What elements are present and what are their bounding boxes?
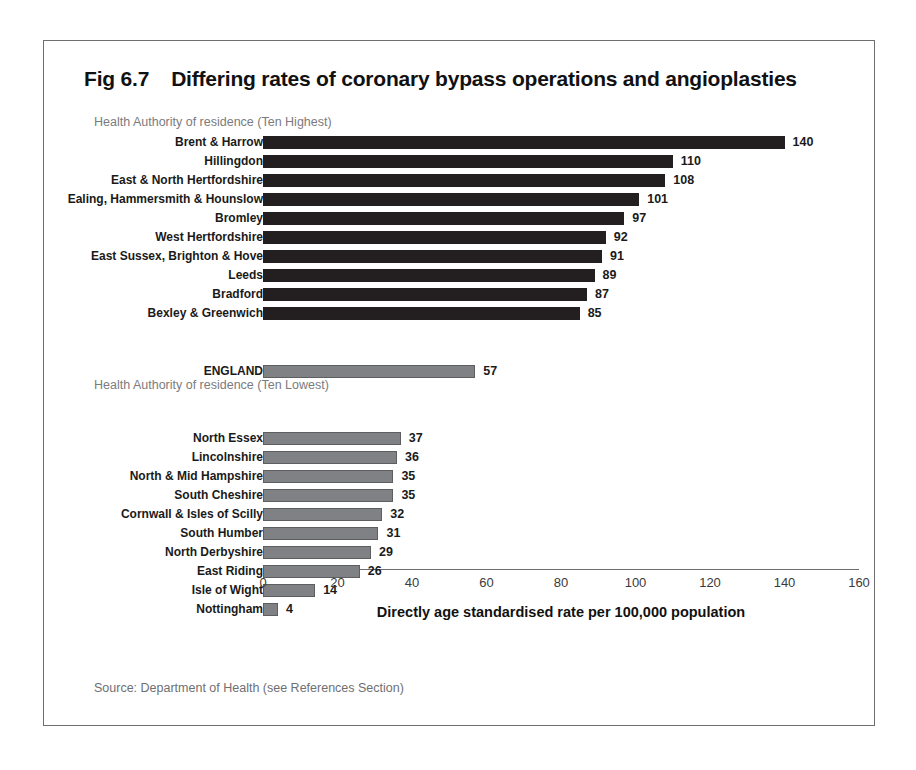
bar-value-label: 97: [632, 211, 646, 226]
bar: [263, 212, 624, 225]
bar-row: Leeds89: [44, 267, 876, 286]
bar: [263, 307, 580, 320]
bar-category-label: Brent & Harrow: [175, 135, 263, 150]
x-axis-tick-label: 60: [479, 575, 493, 590]
bar-row: Bradford87: [44, 286, 876, 305]
bar-track: [263, 136, 785, 149]
bar-row: North Derbyshire29: [44, 544, 876, 563]
bar-row: East & North Hertfordshire108: [44, 172, 876, 191]
bar: [263, 231, 606, 244]
bar-row: Hillingdon110: [44, 153, 876, 172]
bar-row: South Cheshire35: [44, 487, 876, 506]
bar: [263, 508, 382, 521]
x-axis-tick-label: 100: [625, 575, 647, 590]
bar-track: [263, 584, 315, 597]
bar: [263, 155, 673, 168]
bar: [263, 603, 278, 616]
bar: [263, 546, 371, 559]
bar: [263, 489, 393, 502]
bar-row: North Essex37: [44, 430, 876, 449]
bar-row: Brent & Harrow140: [44, 134, 876, 153]
bar-value-label: 57: [483, 364, 497, 379]
x-axis-tick-label: 80: [554, 575, 568, 590]
bar: [263, 193, 639, 206]
bar-category-label: North Derbyshire: [165, 545, 263, 560]
bar-value-label: 26: [368, 564, 382, 579]
bar-track: [263, 451, 397, 464]
bar: [263, 365, 475, 378]
bar-row: Bexley & Greenwich85: [44, 305, 876, 324]
x-axis-tick-label: 160: [848, 575, 870, 590]
bar: [263, 432, 401, 445]
bar: [263, 451, 397, 464]
bar-track: [263, 307, 580, 320]
bar: [263, 527, 378, 540]
bar-category-label: East Riding: [197, 564, 263, 579]
bar-track: [263, 231, 606, 244]
bar-track: [263, 508, 382, 521]
bar-row: Isle of Wight14: [44, 582, 876, 601]
bar-category-label: Ealing, Hammersmith & Hounslow: [68, 192, 263, 207]
bar-row: East Sussex, Brighton & Hove91: [44, 248, 876, 267]
bar-row: South Humber31: [44, 525, 876, 544]
bar: [263, 250, 602, 263]
bar-category-label: East & North Hertfordshire: [111, 173, 263, 188]
bar-row: ENGLAND57: [44, 363, 876, 382]
bar-track: [263, 288, 587, 301]
bar: [263, 269, 595, 282]
x-axis-tick-label: 120: [699, 575, 721, 590]
bar-value-label: 92: [614, 230, 628, 245]
bar-value-label: 29: [379, 545, 393, 560]
bar-category-label: North Essex: [193, 431, 263, 446]
bar-value-label: 140: [793, 135, 814, 150]
bar-value-label: 37: [409, 431, 423, 446]
bar-track: [263, 470, 393, 483]
bar-category-label: Bradford: [212, 287, 263, 302]
bar-track: [263, 365, 475, 378]
x-axis-tick-label: 20: [330, 575, 344, 590]
bar-track: [263, 193, 639, 206]
bar-track: [263, 250, 602, 263]
bar-category-label: South Cheshire: [174, 488, 263, 503]
bar-category-label: Bexley & Greenwich: [148, 306, 263, 321]
bar-value-label: 35: [401, 469, 415, 484]
bar: [263, 174, 665, 187]
bar-category-label: ENGLAND: [204, 364, 263, 379]
bar: [263, 470, 393, 483]
bar-category-label: Lincolnshire: [192, 450, 263, 465]
bar-row: Ealing, Hammersmith & Hounslow101: [44, 191, 876, 210]
bar-value-label: 89: [603, 268, 617, 283]
bar-category-label: West Hertfordshire: [155, 230, 263, 245]
bar-track: [263, 155, 673, 168]
bar-category-label: Cornwall & Isles of Scilly: [121, 507, 263, 522]
bar-category-label: East Sussex, Brighton & Hove: [91, 249, 263, 264]
bar-value-label: 4: [286, 602, 293, 617]
bar-value-label: 87: [595, 287, 609, 302]
bar: [263, 136, 785, 149]
bar-category-label: Bromley: [215, 211, 263, 226]
x-axis-tick-label: 140: [774, 575, 796, 590]
bar-track: [263, 603, 278, 616]
bar-track: [263, 565, 360, 578]
bar-value-label: 101: [647, 192, 668, 207]
bar-row: Nottingham4: [44, 601, 876, 620]
bar-row: Bromley97: [44, 210, 876, 229]
bar-value-label: 108: [673, 173, 694, 188]
figure-frame: Fig 6.7 Differing rates of coronary bypa…: [43, 40, 875, 726]
bar-row: East Riding26: [44, 563, 876, 582]
bar-value-label: 85: [588, 306, 602, 321]
bar-value-label: 36: [405, 450, 419, 465]
x-axis-tick-label: 0: [259, 575, 266, 590]
bar-value-label: 91: [610, 249, 624, 264]
bar-value-label: 32: [390, 507, 404, 522]
bar-category-label: North & Mid Hampshire: [130, 469, 263, 484]
bar-row: West Hertfordshire92: [44, 229, 876, 248]
bar-track: [263, 212, 624, 225]
bar: [263, 565, 360, 578]
bar-track: [263, 489, 393, 502]
source-note: Source: Department of Health (see Refere…: [94, 681, 404, 695]
bar: [263, 288, 587, 301]
bar-chart-plot-area: Directly age standardised rate per 100,0…: [44, 41, 876, 727]
bar-value-label: 31: [386, 526, 400, 541]
bar: [263, 584, 315, 597]
